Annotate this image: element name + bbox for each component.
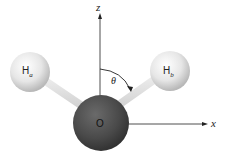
theta-label: θ [111, 76, 116, 86]
hydrogen-a-label: Ha [22, 66, 33, 79]
x-axis-arrow-icon [202, 122, 208, 126]
z-axis-label: z [96, 2, 100, 13]
hydrogen-b-label: Hb [163, 66, 174, 79]
z-axis-arrow-icon [98, 13, 102, 19]
x-axis-label: x [211, 118, 216, 129]
oxygen-label: O [96, 119, 104, 129]
